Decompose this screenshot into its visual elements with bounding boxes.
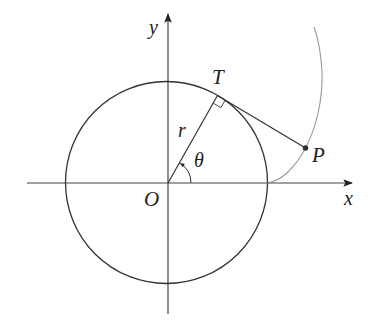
y-axis-label: y [149, 17, 158, 37]
point-p-label: P [312, 145, 325, 166]
angle-label: θ [194, 150, 204, 170]
origin-label: O [144, 189, 159, 210]
radius-label: r [178, 120, 186, 140]
x-axis-label: x [344, 188, 353, 208]
tangent-line [218, 96, 306, 149]
radius-line [168, 96, 218, 184]
point-p-dot [303, 145, 309, 151]
tangent-point-label: T [212, 67, 224, 88]
angle-arc [181, 164, 192, 184]
right-angle-marker [213, 100, 225, 108]
